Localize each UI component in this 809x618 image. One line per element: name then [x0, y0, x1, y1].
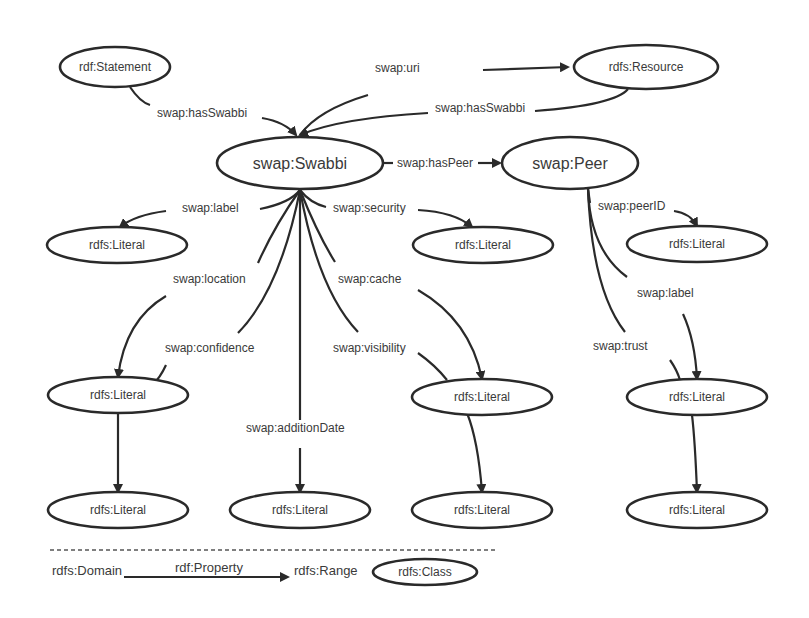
edge-resource-uri	[300, 67, 568, 135]
edge-line	[692, 415, 697, 492]
edge-line	[674, 211, 697, 226]
edge-label: swap:trust	[593, 339, 648, 353]
node-label: rdfs:Literal	[90, 388, 146, 402]
node-lit_additiondate: rdfs:Literal	[230, 492, 370, 528]
edge-label: swap:additionDate	[246, 421, 345, 435]
edge-line	[670, 360, 680, 380]
edge-label: swap:uri	[375, 61, 420, 75]
edge-line	[258, 190, 300, 263]
edge-line	[262, 118, 296, 135]
node-lit_confidence: rdfs:Literal	[48, 492, 188, 528]
edge-label: swap:visibility	[333, 341, 406, 355]
node-statement: rdf:Statement	[60, 47, 170, 87]
node-lit_security: rdfs:Literal	[413, 227, 553, 263]
edge-line	[418, 290, 482, 379]
edge-line	[300, 95, 368, 135]
edge-label: swap:label	[637, 286, 694, 300]
edge-cache-visibility	[467, 413, 482, 492]
edge-label: swap:hasSwabbi	[435, 101, 525, 115]
node-label: swap:Swabbi	[253, 155, 347, 172]
node-resource: rdfs:Resource	[574, 45, 718, 89]
legend: rdfs:Domain rdf:Property rdfs:Range rdfs…	[50, 550, 496, 585]
edge-label: swap:label	[182, 201, 239, 215]
node-lit_peerid: rdfs:Literal	[627, 226, 767, 262]
node-label: rdfs:Literal	[455, 238, 511, 252]
edge-label: swap:location	[173, 272, 246, 286]
edge-line	[683, 314, 697, 379]
edge-label: swap:confidence	[165, 341, 255, 355]
edge-line	[483, 67, 568, 70]
node-label: rdfs:Literal	[89, 238, 145, 252]
edge-label: swap:cache	[338, 272, 402, 286]
edge-line	[238, 190, 300, 333]
edge-line	[418, 353, 447, 380]
node-label: rdfs:Resource	[609, 60, 684, 74]
node-label: rdfs:Literal	[669, 503, 725, 517]
node-label: rdfs:Literal	[454, 390, 510, 404]
node-label: rdfs:Literal	[454, 503, 510, 517]
node-label: rdfs:Literal	[669, 237, 725, 251]
node-label: swap:Peer	[532, 155, 608, 172]
edge-line	[118, 296, 166, 377]
legend-range-label: rdfs:Range	[294, 563, 358, 578]
edge-label: swap:peerID	[598, 199, 666, 213]
edge-peerlabel-trust	[692, 415, 697, 492]
edge-label: swap:hasPeer	[397, 156, 473, 170]
node-label: rdf:Statement	[79, 60, 152, 74]
node-swabbi: swap:Swabbi	[217, 137, 383, 189]
edge-line	[120, 211, 166, 227]
node-lit_cache: rdfs:Literal	[412, 379, 552, 415]
node-lit_label: rdfs:Literal	[47, 227, 187, 263]
node-label: rdfs:Literal	[272, 503, 328, 517]
edge-line	[300, 190, 335, 262]
node-peer: swap:Peer	[502, 137, 638, 189]
node-label: rdfs:Literal	[90, 503, 146, 517]
edge-line	[535, 89, 628, 111]
legend-domain-label: rdfs:Domain	[52, 563, 122, 578]
rdf-schema-diagram: rdf:Statementrdfs:Resourceswap:Swabbiswa…	[0, 0, 809, 618]
node-lit_peerlabel: rdfs:Literal	[627, 379, 767, 415]
node-lit_trust: rdfs:Literal	[627, 492, 767, 528]
edge-label: swap:security	[333, 201, 406, 215]
edge-line	[130, 87, 150, 105]
edge-line	[418, 210, 472, 227]
node-lit_visibility: rdfs:Literal	[412, 492, 552, 528]
node-lit_location: rdfs:Literal	[48, 377, 188, 413]
edge-label: swap:hasSwabbi	[157, 106, 247, 120]
legend-class-label: rdfs:Class	[398, 565, 451, 579]
legend-class-node: rdfs:Class	[373, 559, 477, 585]
legend-property-label: rdf:Property	[175, 560, 243, 575]
edge-line	[467, 413, 482, 492]
node-label: rdfs:Literal	[669, 390, 725, 404]
